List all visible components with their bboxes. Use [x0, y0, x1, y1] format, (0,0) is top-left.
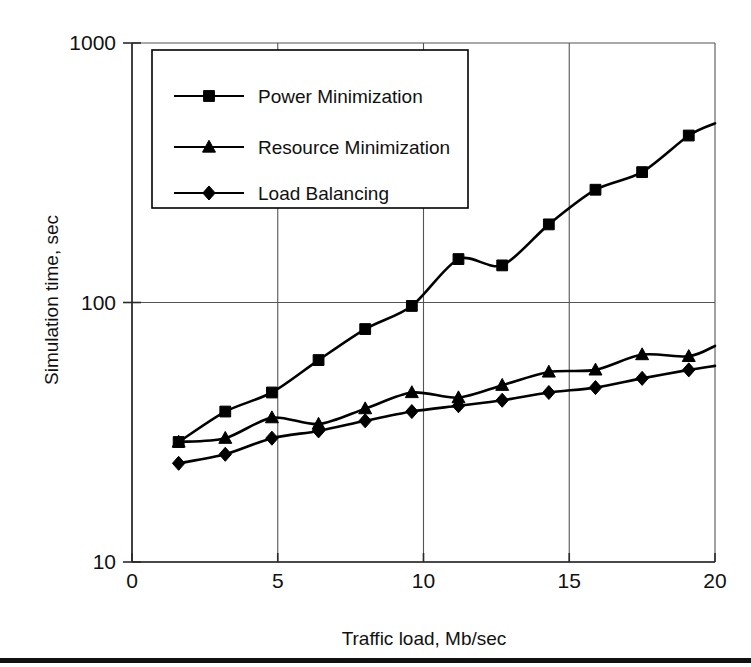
x-tick-label: 20 [703, 569, 726, 592]
legend-label: Resource Minimization [258, 137, 450, 158]
data-point-square [497, 260, 508, 271]
data-point-square [637, 167, 648, 178]
bottom-divider [0, 658, 751, 663]
chart-svg: 05101520101001000 Traffic load, Mb/sec S… [0, 0, 751, 667]
y-tick-label: 1000 [69, 31, 116, 54]
x-axis-title: Traffic load, Mb/sec [342, 628, 507, 649]
legend-marker-square [204, 91, 215, 102]
data-point-square [360, 324, 371, 335]
data-point-square [220, 406, 231, 417]
y-tick-label: 10 [93, 550, 116, 573]
legend-label: Load Balancing [258, 183, 389, 204]
legend-label: Power Minimization [258, 86, 423, 107]
data-point-square [313, 355, 324, 366]
data-point-square [406, 301, 417, 312]
x-tick-label: 10 [412, 569, 435, 592]
data-point-square [267, 387, 278, 398]
x-tick-label: 5 [272, 569, 284, 592]
data-point-square [543, 219, 554, 230]
y-axis-title: Simulation time, sec [41, 215, 62, 385]
chart-legend: Power MinimizationResource MinimizationL… [152, 50, 468, 208]
y-tick-label: 100 [81, 291, 116, 314]
chart-figure: 05101520101001000 Traffic load, Mb/sec S… [0, 0, 751, 667]
data-point-square [683, 130, 694, 141]
x-tick-label: 0 [126, 569, 138, 592]
x-tick-label: 15 [558, 569, 581, 592]
data-point-square [590, 184, 601, 195]
data-point-square [453, 254, 464, 265]
